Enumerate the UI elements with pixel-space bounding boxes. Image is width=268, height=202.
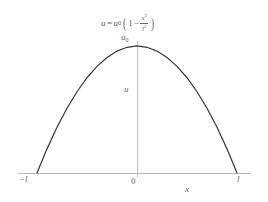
equation-fraction: x2 l2 [140, 13, 148, 34]
x-tick-label-origin: 0 [131, 177, 136, 186]
y-axis-label: u [124, 85, 129, 94]
equation-one: 1 [128, 19, 133, 28]
equation-minus: − [134, 19, 139, 28]
x-tick-label-negative-l: −l [19, 175, 28, 184]
equation-denominator-exponent: 2 [144, 24, 147, 29]
equation-numerator-exponent: 2 [145, 13, 148, 18]
equation-amplitude-subscript: 0 [118, 20, 121, 27]
equation-equals: = [107, 19, 112, 28]
x-tick-label-positive-l: l [237, 175, 240, 184]
equation-close-paren: ) [150, 17, 153, 29]
equation-denominator: l2 [141, 24, 147, 34]
equation-open-paren: ( [123, 17, 126, 29]
equation-label: u = u 0 ( 1 − x2 l2 ) [101, 13, 156, 34]
peak-amplitude-label: u0 [121, 33, 129, 43]
equation-numerator: x2 [140, 13, 148, 23]
x-axis-label: x [185, 185, 189, 194]
equation-lhs: u [101, 19, 106, 28]
